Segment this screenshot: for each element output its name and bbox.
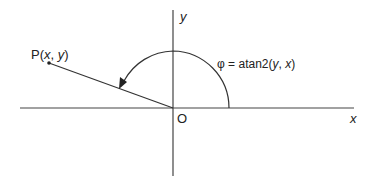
op-segment — [49, 63, 173, 108]
point-label: P(x, y) — [31, 47, 69, 62]
angle-arc — [124, 51, 229, 108]
atan2-diagram: P(x, y) y x O φ = atan2(y, x) — [0, 0, 376, 186]
x-axis-label: x — [349, 111, 357, 126]
angle-formula-label: φ = atan2(y, x) — [217, 57, 295, 71]
y-axis-label: y — [179, 9, 188, 24]
origin-label: O — [177, 111, 187, 126]
